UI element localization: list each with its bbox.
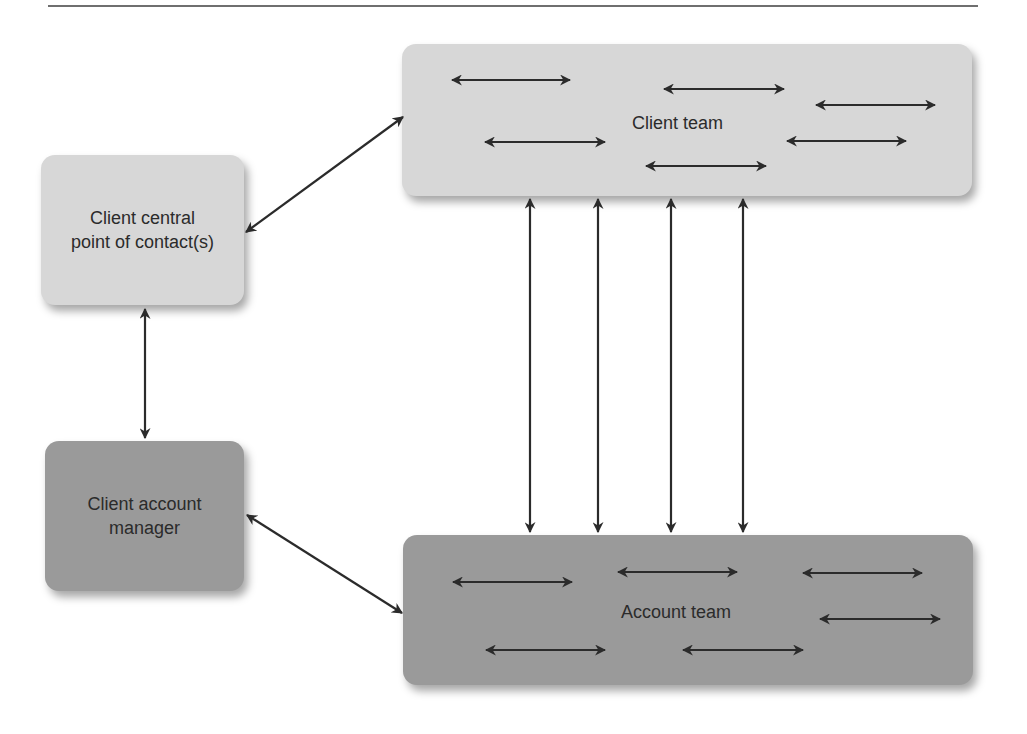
manager-account-team-arrow — [247, 515, 402, 613]
contact-client-team-arrow — [246, 117, 403, 232]
arrows-layer — [0, 0, 1027, 734]
